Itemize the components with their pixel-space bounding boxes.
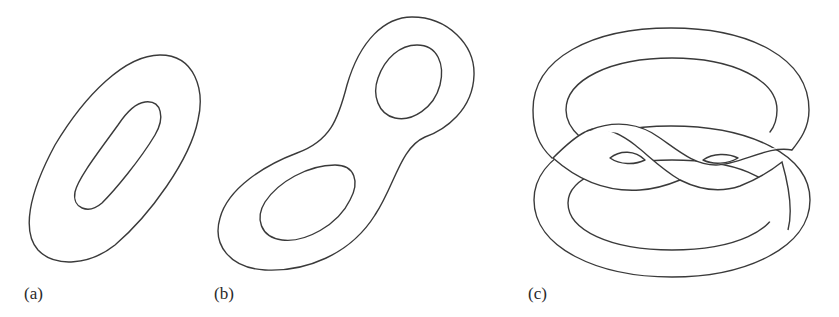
panel-a-shape [29,55,200,262]
panel-c-shape [533,28,810,277]
panel-c-label: (c) [528,285,547,302]
panel-c-top-ring-inner [566,58,777,137]
panel-b-shape [218,17,474,270]
panel-a-label: (a) [24,285,43,302]
panel-b-lower-hole [260,165,355,240]
panel-a-inner-hole [75,102,161,209]
figure-canvas [0,0,839,317]
panel-b-upper-hole [376,45,442,119]
panel-a-outer-boundary [29,55,200,262]
panel-b-label: (b) [214,285,234,302]
panel-b-outer-boundary [218,17,474,270]
